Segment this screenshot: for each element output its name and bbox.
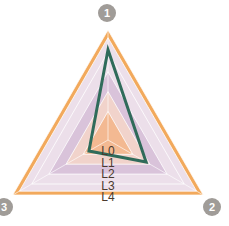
axis-marker-1: 1 (98, 4, 116, 22)
axis-marker-2: 2 (203, 198, 221, 216)
radar-chart: L0L1L2L3L4 123 (0, 0, 229, 226)
axis-marker-3: 3 (0, 198, 13, 216)
axis-label: 1 (104, 7, 110, 19)
level-labels: L0L1L2L3L4 (101, 144, 115, 204)
level-label-l4: L4 (101, 190, 115, 204)
axis-label: 2 (209, 201, 215, 213)
axis-label: 3 (1, 201, 7, 213)
